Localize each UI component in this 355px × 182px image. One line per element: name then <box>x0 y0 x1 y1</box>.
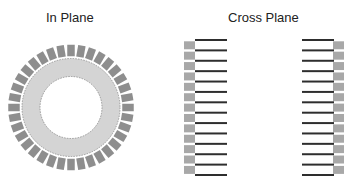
ring-block <box>121 113 134 122</box>
cross-block <box>184 104 195 112</box>
cross-block <box>184 145 195 153</box>
cross-block <box>184 83 195 91</box>
cross-block <box>333 104 344 112</box>
ring-block <box>67 45 75 57</box>
ring-block <box>76 157 85 170</box>
ring-block <box>118 122 131 133</box>
cross-block <box>184 156 195 164</box>
ring-block <box>85 47 96 60</box>
ring-block <box>76 45 85 58</box>
cross-block <box>184 52 195 60</box>
ring-block <box>11 83 24 94</box>
cross-block <box>333 124 344 132</box>
ring-block <box>9 93 22 102</box>
diagram-canvas <box>0 0 355 182</box>
cross-block <box>333 52 344 60</box>
cross-block <box>184 124 195 132</box>
cross-plane-right-column <box>302 40 344 175</box>
ring-block <box>121 93 134 102</box>
ring-block <box>9 113 22 122</box>
ring-block <box>8 104 20 112</box>
cross-block <box>184 62 195 70</box>
ring-block <box>11 122 24 133</box>
cross-block <box>333 145 344 153</box>
cross-block <box>184 135 195 143</box>
ring-block <box>46 47 57 60</box>
cross-block <box>333 72 344 80</box>
ring-block <box>56 157 65 170</box>
cross-block <box>184 114 195 122</box>
cross-block <box>184 93 195 101</box>
cross-block <box>333 135 344 143</box>
in-plane-diagram <box>8 45 134 171</box>
cross-plane-left-column <box>184 40 227 175</box>
cross-block <box>333 62 344 70</box>
cross-block <box>333 83 344 91</box>
cross-block <box>184 41 195 49</box>
ring-block <box>118 83 131 94</box>
ring-block <box>46 154 57 167</box>
ring-block <box>122 104 134 112</box>
cross-block <box>333 41 344 49</box>
ring-block <box>85 154 96 167</box>
ring-body <box>22 58 120 156</box>
cross-block <box>333 156 344 164</box>
cross-block <box>333 93 344 101</box>
cross-block <box>184 166 195 174</box>
ring-inner-edge <box>40 77 102 139</box>
cross-block <box>333 114 344 122</box>
ring-block <box>56 45 65 58</box>
cross-block <box>184 72 195 80</box>
cross-block <box>333 166 344 174</box>
ring-block <box>67 159 75 171</box>
